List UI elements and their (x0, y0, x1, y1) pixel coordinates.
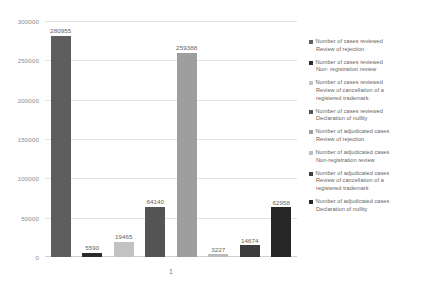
legend-item-label: Number of cases reviewedNon- registratio… (316, 59, 430, 74)
bars-container: 2809555590194656414025938832271467462958 (45, 21, 297, 257)
bar-value-label: 5590 (85, 244, 99, 251)
bar-group: 5590 (82, 21, 102, 257)
legend-item-line: Number of cases reviewed (316, 79, 430, 87)
legend-item-line: Non- registration review (316, 66, 430, 74)
bar-value-label: 3227 (211, 246, 225, 253)
legend-item-label: Number of cases reviewedReview of reject… (316, 38, 430, 53)
bar[interactable] (177, 53, 197, 257)
legend-item-line: Number of adjudicated cases (316, 149, 430, 157)
bar-value-label: 19465 (115, 233, 133, 240)
bar[interactable] (82, 253, 102, 257)
legend-item[interactable]: Number of adjudicated casesReview of rej… (309, 128, 429, 143)
legend-item-line: Review of cancellation of a (316, 177, 430, 185)
legend-swatch-icon (309, 172, 313, 176)
legend-item[interactable]: Number of adjudicated casesDeclaration o… (309, 198, 429, 213)
bar-group: 259388 (177, 21, 197, 257)
legend-item[interactable]: Number of adjudicated casesNon-registrat… (309, 149, 429, 164)
x-axis: 1 (45, 260, 297, 278)
legend-swatch-icon (309, 200, 313, 204)
plot-area: 050000100000150000200000250000300000 280… (0, 0, 300, 295)
legend-item-line: Number of adjudicated cases (316, 128, 430, 136)
legend-item-line: Number of adjudicated cases (316, 198, 430, 206)
bar[interactable] (240, 245, 260, 257)
legend-swatch-icon (309, 130, 313, 134)
bar-group: 14674 (240, 21, 260, 257)
y-axis: 050000100000150000200000250000300000 (0, 0, 42, 295)
bar-group: 19465 (114, 21, 134, 257)
legend-item-line: Number of cases reviewed (316, 38, 430, 46)
bar[interactable] (145, 207, 165, 257)
bar-group: 62958 (271, 21, 291, 257)
y-axis-tick-label: 100000 (18, 175, 39, 182)
legend-item[interactable]: Number of cases reviewedDeclaration of n… (309, 108, 429, 123)
y-axis-tick-label: 50000 (21, 214, 39, 221)
legend-item-label: Number of adjudicated casesNon-registrat… (316, 149, 430, 164)
legend-item[interactable]: Number of adjudicated casesReview of can… (309, 170, 429, 193)
legend-item-line: Number of adjudicated cases (316, 170, 430, 178)
bar-group: 280955 (51, 21, 71, 257)
x-axis-tick-label: 1 (169, 268, 173, 275)
bar[interactable] (271, 207, 291, 257)
bar-value-label: 14674 (241, 237, 259, 244)
y-axis-tick-label: 150000 (18, 136, 39, 143)
legend-item-line: Review of rejection (316, 46, 430, 54)
bar-group: 64140 (145, 21, 165, 257)
bar[interactable] (114, 242, 134, 257)
bar-group: 3227 (208, 21, 228, 257)
legend-item-line: Number of cases reviewed (316, 108, 430, 116)
y-axis-tick-label: 0 (35, 254, 39, 261)
legend-item-label: Number of cases reviewedDeclaration of n… (316, 108, 430, 123)
legend-item-label: Number of adjudicated casesReview of rej… (316, 128, 430, 143)
legend-item-label: Number of adjudicated casesReview of can… (316, 170, 430, 193)
legend-item[interactable]: Number of cases reviewedReview of reject… (309, 38, 429, 53)
legend-item[interactable]: Number of cases reviewedNon- registratio… (309, 59, 429, 74)
legend-item-line: Review of rejection (316, 136, 430, 144)
chart-legend: Number of cases reviewedReview of reject… (309, 38, 429, 219)
legend-swatch-icon (309, 61, 313, 65)
y-axis-tick-label: 300000 (18, 18, 39, 25)
legend-item-line: Non-registration review (316, 157, 430, 165)
legend-item-label: Number of cases reviewedReview of cancel… (316, 79, 430, 102)
legend-item-line: registered trademark (316, 95, 430, 103)
legend-item-line: Declaration of nullity (316, 206, 430, 214)
bar-chart: 050000100000150000200000250000300000 280… (0, 0, 432, 295)
bar-value-label: 280955 (50, 27, 71, 34)
y-axis-tick-label: 200000 (18, 96, 39, 103)
bar[interactable] (51, 36, 71, 257)
legend-item-line: registered trademark (316, 185, 430, 193)
legend-swatch-icon (309, 40, 313, 44)
bar-value-label: 259388 (176, 44, 197, 51)
legend-swatch-icon (309, 81, 313, 85)
legend-swatch-icon (309, 110, 313, 114)
legend-item-line: Review of cancellation of a (316, 87, 430, 95)
bar-value-label: 62958 (272, 199, 290, 206)
bar-value-label: 64140 (146, 198, 164, 205)
legend-swatch-icon (309, 151, 313, 155)
legend-item-line: Declaration of nullity (316, 115, 430, 123)
legend-item-label: Number of adjudicated casesDeclaration o… (316, 198, 430, 213)
y-axis-tick-label: 250000 (18, 57, 39, 64)
legend-item[interactable]: Number of cases reviewedReview of cancel… (309, 79, 429, 102)
bar[interactable] (208, 254, 228, 257)
legend-item-line: Number of cases reviewed (316, 59, 430, 67)
